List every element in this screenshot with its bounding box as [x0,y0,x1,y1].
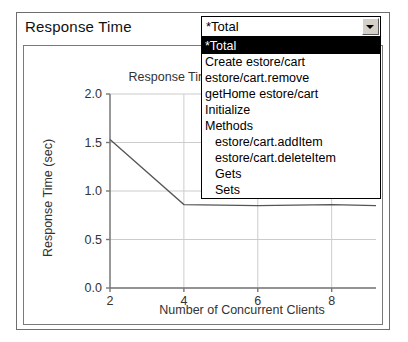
x-tick-label: 8 [328,294,335,308]
dropdown-option[interactable]: estore/cart.deleteItem [202,150,380,166]
y-tick-label: 1.5 [85,136,102,150]
metric-select[interactable]: *Total [201,16,381,37]
response-time-panel: Response Time *Total 0.00.51.01.52.02468… [16,12,390,330]
chart-y-axis-label: Response Time (sec) [41,139,55,257]
metric-select-dropdown[interactable]: *TotalCreate estore/cartestore/cart.remo… [201,37,381,199]
chevron-down-icon[interactable] [362,18,379,35]
dropdown-option[interactable]: *Total [202,38,380,54]
chevron-down-glyph [366,25,374,29]
metric-select-value: *Total [206,19,239,34]
dropdown-option[interactable]: Methods [202,118,380,134]
y-tick-label: 2.0 [85,87,102,101]
dropdown-option[interactable]: Gets [202,166,380,182]
dropdown-option[interactable]: estore/cart.addItem [202,134,380,150]
x-tick-label: 2 [107,294,114,308]
application-screenshot: Response Time *Total 0.00.51.01.52.02468… [0,0,408,342]
dropdown-option[interactable]: Initialize [202,102,380,118]
dropdown-option[interactable]: getHome estore/cart [202,86,380,102]
y-tick-label: 0.5 [85,233,102,247]
page-title: Response Time [25,18,132,35]
y-tick-label: 0.0 [85,281,102,295]
dropdown-option[interactable]: Create estore/cart [202,54,380,70]
chart-x-axis-label: Number of Concurrent Clients [159,303,324,317]
y-tick-label: 1.0 [85,184,102,198]
dropdown-option[interactable]: Sets [202,182,380,198]
dropdown-option[interactable]: estore/cart.remove [202,70,380,86]
